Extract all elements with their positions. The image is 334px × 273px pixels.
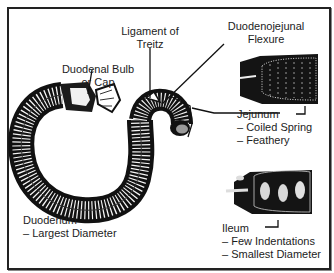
ligament-line1: Ligament of — [112, 25, 188, 38]
label-ileum: Ileum – Few Indentations – Smallest Diam… — [222, 222, 321, 261]
bulb-line2: or Cap — [55, 76, 141, 89]
duodenum-note-largest-diameter: – Largest Diameter — [23, 227, 117, 240]
jejunum-note-coiled-spring: – Coiled Spring — [237, 121, 312, 134]
flexure-line1: Duodenojejunal — [216, 20, 316, 33]
jejunum-note-feathery: – Feathery — [237, 134, 312, 147]
label-duodenum: Duodenum – Largest Diameter — [23, 214, 117, 240]
label-duodenal-bulb: Duodenal Bulb or Cap — [55, 63, 141, 89]
ileum-specimen — [226, 170, 312, 214]
bulb-line1: Duodenal Bulb — [55, 63, 141, 76]
label-duodenojejunal-flexure: Duodenojejunal Flexure — [216, 20, 316, 46]
label-ligament-of-treitz: Ligament of Treitz — [112, 25, 188, 51]
label-jejunum: Jejunum – Coiled Spring – Feathery — [237, 108, 312, 147]
jejunum-specimen — [240, 54, 318, 104]
ligament-line2: Treitz — [112, 38, 188, 51]
jejunum-title: Jejunum — [237, 108, 312, 121]
duodenum-title: Duodenum — [23, 214, 117, 227]
flexure-line2: Flexure — [216, 33, 316, 46]
ileum-note-few-indentations: – Few Indentations — [222, 235, 321, 248]
ileum-note-smallest-diameter: – Smallest Diameter — [222, 248, 321, 261]
ileum-title: Ileum — [222, 222, 321, 235]
